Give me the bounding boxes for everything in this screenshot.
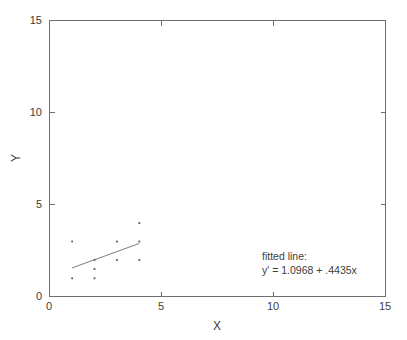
x-tick-label-10: 10 xyxy=(267,300,279,312)
data-point xyxy=(94,268,96,270)
x-axis-title: X xyxy=(213,319,221,333)
fitted-regression-line xyxy=(72,244,139,269)
data-point xyxy=(116,241,118,243)
data-point xyxy=(138,241,140,243)
y-axis-title: Y xyxy=(9,154,23,162)
data-point xyxy=(71,277,73,279)
y-axis-ticks xyxy=(50,21,386,297)
x-tick-label-15: 15 xyxy=(379,300,391,312)
data-point xyxy=(94,259,96,261)
scatter-plot-figure: 0 5 10 15 0 5 10 15 X Y fitted line: y' … xyxy=(0,0,407,340)
y-tick-label-0: 0 xyxy=(36,290,42,302)
data-point xyxy=(116,259,118,261)
data-point-markers xyxy=(71,222,140,279)
plot-frame xyxy=(50,21,386,297)
data-point xyxy=(71,241,73,243)
x-axis-ticks xyxy=(50,21,386,297)
x-tick-label-0: 0 xyxy=(46,300,52,312)
data-point xyxy=(138,259,140,261)
y-tick-label-10: 10 xyxy=(30,106,42,118)
y-tick-label-5: 5 xyxy=(36,198,42,210)
y-tick-label-15: 15 xyxy=(30,14,42,26)
plot-canvas: 0 5 10 15 0 5 10 15 X Y fitted line: y' … xyxy=(0,0,407,340)
data-point xyxy=(138,222,140,224)
fitted-line-equation: y' = 1.0968 + .4435x xyxy=(262,264,358,276)
x-tick-label-5: 5 xyxy=(158,300,164,312)
fitted-line-caption: fitted line: xyxy=(262,250,307,262)
data-point xyxy=(94,277,96,279)
